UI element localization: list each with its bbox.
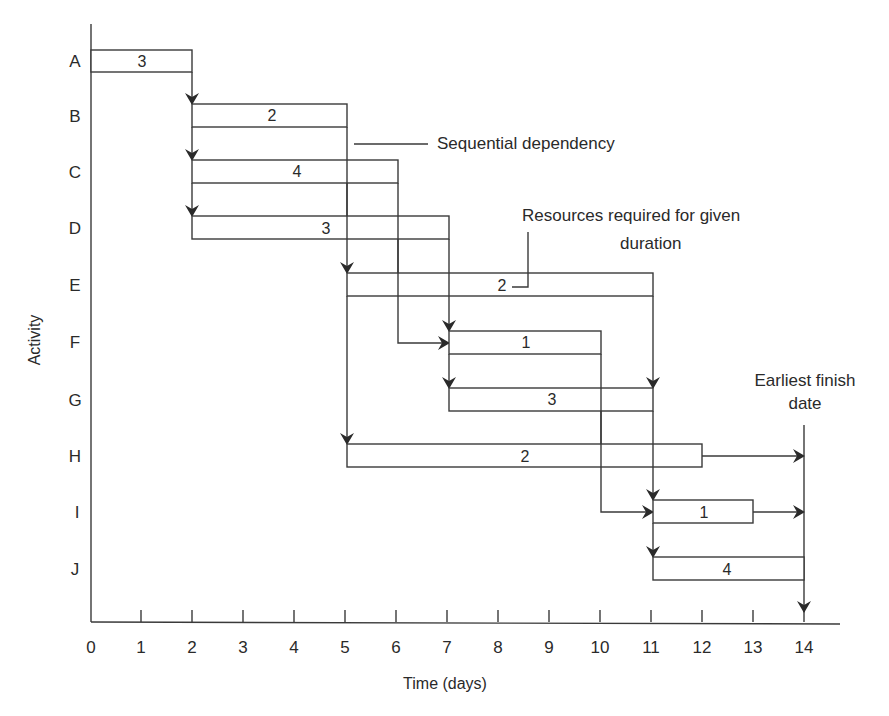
row-label-a: A (69, 52, 81, 71)
row-label-f: F (70, 333, 80, 352)
x-tick-8: 8 (493, 638, 502, 657)
annotation-earliest-finish: Earliest finish date (754, 371, 855, 413)
x-tick-11: 11 (642, 638, 660, 657)
x-tick-7: 7 (442, 638, 451, 657)
bar-c: 4 (192, 160, 398, 183)
y-row-labels: A B C D E F G H I J (68, 52, 81, 579)
x-tick-2: 2 (187, 638, 196, 657)
annotation-sequential-text: Sequential dependency (437, 134, 615, 153)
bar-i: 1 (653, 500, 753, 523)
row-label-g: G (68, 391, 81, 410)
bar-g-label: 3 (548, 391, 557, 408)
activity-bars: 3 2 4 3 2 1 3 2 (91, 50, 804, 580)
y-axis-title: Activity (26, 315, 43, 366)
link-c-f (398, 183, 449, 343)
bar-f: 1 (449, 331, 601, 354)
bar-h-label: 2 (521, 448, 530, 465)
x-axis-title: Time (days) (403, 675, 487, 692)
bar-e-label: 2 (498, 277, 507, 294)
bar-d: 3 (192, 216, 449, 239)
row-label-b: B (69, 107, 80, 126)
x-tick-10: 10 (591, 638, 610, 657)
x-tick-13: 13 (744, 638, 763, 657)
x-tick-3: 3 (238, 638, 247, 657)
bar-h: 2 (347, 444, 702, 467)
bar-e: 2 (347, 273, 653, 296)
x-tick-14: 14 (795, 638, 814, 657)
x-axis-ticks (141, 610, 804, 622)
link-f-i (601, 354, 653, 512)
x-tick-6: 6 (391, 638, 400, 657)
bar-f-label: 1 (522, 334, 531, 351)
annotation-resources-line2: duration (620, 234, 681, 253)
annotation-resources-line1: Resources required for given (522, 206, 740, 225)
x-tick-labels: 0 1 2 3 4 5 6 7 8 9 10 11 12 13 14 (86, 638, 813, 657)
x-tick-1: 1 (136, 638, 145, 657)
bar-c-label: 4 (293, 163, 302, 180)
row-label-i: I (75, 503, 80, 522)
bar-b: 2 (192, 104, 347, 127)
row-label-c: C (69, 163, 81, 182)
bar-b-label: 2 (268, 107, 277, 124)
x-tick-5: 5 (340, 638, 349, 657)
x-tick-4: 4 (289, 638, 298, 657)
bar-a: 3 (91, 50, 192, 72)
x-tick-9: 9 (544, 638, 553, 657)
bar-i-label: 1 (700, 504, 709, 521)
gantt-chart: 0 1 2 3 4 5 6 7 8 9 10 11 12 13 14 Time … (0, 0, 889, 716)
x-axis-line (91, 622, 840, 624)
bar-j-label: 4 (723, 561, 732, 578)
x-tick-0: 0 (86, 638, 95, 657)
annotation-finish-line1: Earliest finish (754, 371, 855, 390)
annotation-sequential: Sequential dependency (354, 134, 615, 153)
row-label-h: H (69, 447, 81, 466)
row-label-j: J (71, 560, 80, 579)
annotation-finish-line2: date (788, 394, 821, 413)
bar-d-label: 3 (322, 220, 331, 237)
bar-g: 3 (449, 388, 653, 411)
bar-a-label: 3 (138, 53, 147, 70)
bar-j: 4 (653, 557, 804, 580)
row-label-d: D (69, 219, 81, 238)
row-label-e: E (69, 276, 80, 295)
x-tick-12: 12 (693, 638, 712, 657)
